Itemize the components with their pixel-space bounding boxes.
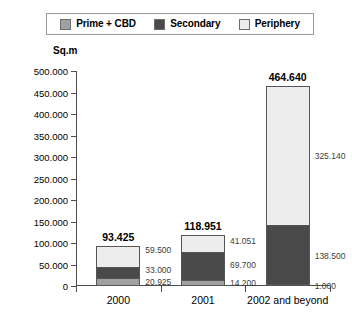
- bar-segment-value-label: 69.700: [230, 260, 256, 270]
- y-axis-tick: [71, 157, 76, 158]
- y-axis-tick: [71, 114, 76, 115]
- bar-segment-prime-cbd[interactable]: [181, 280, 225, 286]
- stacked-bar[interactable]: 93.425: [96, 246, 140, 286]
- y-axis-tick-label: 50.000: [39, 259, 68, 270]
- legend-label-periphery: Periphery: [255, 19, 300, 29]
- y-axis-tick-label: 250.000: [34, 173, 68, 184]
- bar-total-label: 118.951: [184, 220, 221, 232]
- y-axis-tick-label: 500.000: [34, 66, 68, 77]
- y-axis-tick: [71, 179, 76, 180]
- y-axis-tick-label: 150.000: [34, 216, 68, 227]
- y-axis-tick: [71, 200, 76, 201]
- bar-segment-value-label: 20.925: [145, 277, 171, 287]
- x-axis-tick: [161, 286, 162, 292]
- y-axis-tick: [71, 93, 76, 94]
- x-axis-tick: [76, 286, 77, 292]
- bar-segment-value-label: 1.000: [315, 281, 336, 291]
- bar-segment-value-label: 41.051: [230, 236, 256, 246]
- y-axis-tick: [71, 243, 76, 244]
- legend-item-secondary: Secondary: [154, 19, 220, 30]
- y-axis-tick-label: 350.000: [34, 130, 68, 141]
- legend-label-secondary: Secondary: [170, 19, 220, 29]
- bar-segment-secondary[interactable]: [266, 225, 310, 284]
- y-axis-tick-label: 400.000: [34, 109, 68, 120]
- bar-segment-value-label: 33.000: [145, 265, 171, 275]
- bar-segment-secondary[interactable]: [96, 267, 140, 279]
- legend-swatch-prime-cbd: [60, 19, 71, 30]
- bar-segment-value-label: 138.500: [315, 251, 346, 261]
- bar-segment-secondary[interactable]: [181, 252, 225, 280]
- stacked-bar[interactable]: 464.640: [266, 86, 310, 286]
- y-axis-tick-label: 0: [63, 281, 68, 292]
- y-axis-tick-label: 100.000: [34, 238, 68, 249]
- y-axis-tick-label: 300.000: [34, 152, 68, 163]
- y-axis-tick: [71, 222, 76, 223]
- bar-segment-prime-cbd[interactable]: [96, 278, 140, 286]
- bar-total-label: 464.640: [269, 71, 307, 83]
- y-axis-tick-label: 200.000: [34, 195, 68, 206]
- legend-swatch-periphery: [239, 19, 250, 30]
- bar-segment-value-label: 14.200: [230, 278, 256, 288]
- x-axis-category-label: 2002 and beyond: [247, 294, 328, 306]
- bar-segment-periphery[interactable]: [96, 246, 140, 267]
- y-axis-tick: [71, 71, 76, 72]
- chart-legend: Prime + CBD Secondary Periphery: [46, 13, 314, 35]
- bar-segment-value-label: 325.140: [315, 151, 346, 161]
- bar-segment-prime-cbd[interactable]: [266, 284, 310, 286]
- y-axis-tick: [71, 265, 76, 266]
- legend-swatch-secondary: [154, 19, 165, 30]
- y-axis-unit-label: Sq.m: [53, 45, 77, 56]
- x-axis-category-label: 2001: [191, 294, 214, 306]
- bar-total-label: 93.425: [102, 231, 134, 243]
- bar-segment-periphery[interactable]: [181, 235, 225, 252]
- bar-segment-periphery[interactable]: [266, 86, 310, 225]
- legend-item-periphery: Periphery: [239, 19, 300, 30]
- legend-label-prime-cbd: Prime + CBD: [76, 19, 136, 29]
- y-axis-tick-label: 450.000: [34, 87, 68, 98]
- x-axis-category-label: 2000: [107, 294, 130, 306]
- y-axis-tick: [71, 136, 76, 137]
- stacked-bar[interactable]: 118.951: [181, 235, 225, 286]
- chart-plot-area: 500.000450.000400.000350.000300.000250.0…: [76, 71, 330, 286]
- legend-item-prime-cbd: Prime + CBD: [60, 19, 136, 30]
- bar-segment-value-label: 59.500: [145, 245, 171, 255]
